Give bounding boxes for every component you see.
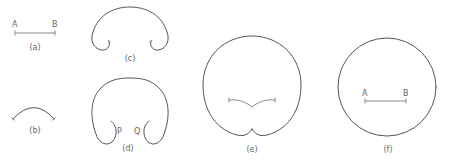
label-q: Q [134, 127, 140, 136]
caption-f: (f) [383, 145, 392, 154]
tick-d-left [111, 121, 114, 123]
label-b: B [52, 20, 58, 29]
circle-f [338, 38, 436, 136]
panel-f: A B (f) [338, 38, 436, 154]
caption-a: (a) [29, 43, 40, 52]
tick-d-right [147, 121, 150, 123]
caption-c: (c) [125, 54, 136, 63]
panel-b: (b) [12, 108, 56, 136]
figure-canvas: A B (a) (b) (c) P Q (d) (e) A [0, 0, 449, 162]
label-p: P [117, 127, 122, 136]
curve-d [92, 78, 168, 144]
panel-a: A B (a) [12, 20, 58, 52]
inner-curve-e [229, 100, 275, 107]
caption-d: (d) [122, 144, 133, 153]
label-a: A [12, 20, 18, 29]
panel-e: (e) [203, 36, 301, 154]
curve-c [92, 7, 168, 50]
caption-b: (b) [29, 126, 40, 135]
outer-curve-e [203, 36, 301, 136]
panel-d: P Q (d) [92, 78, 168, 153]
panel-c: (c) [92, 7, 168, 63]
arc-b [13, 108, 54, 120]
caption-e: (e) [246, 145, 257, 154]
label-a-f: A [362, 89, 368, 98]
label-b-f: B [403, 89, 409, 98]
